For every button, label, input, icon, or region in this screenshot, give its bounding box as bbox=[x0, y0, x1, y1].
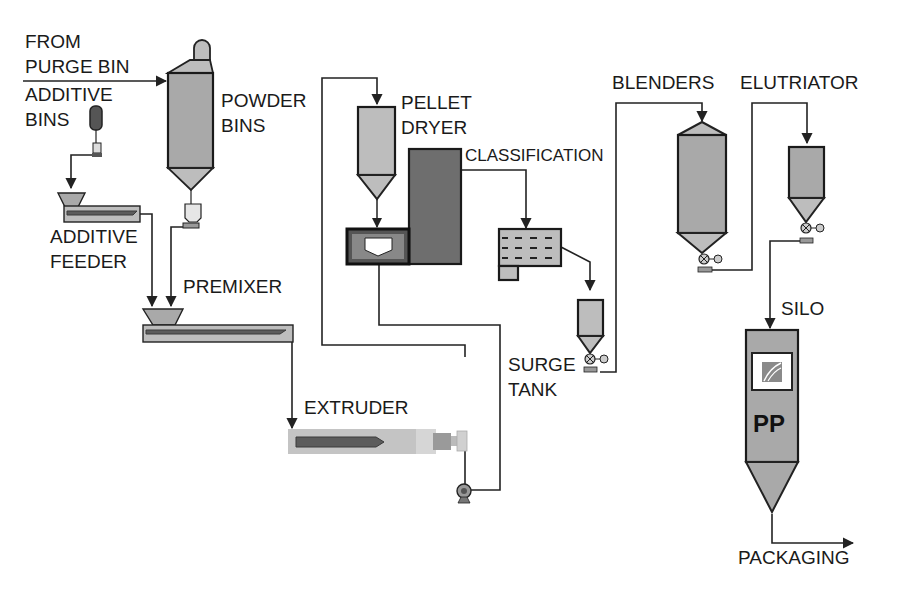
flow-additive-bins-to-feeder bbox=[71, 155, 96, 188]
label-surge-tank-line2: TANK bbox=[508, 379, 558, 400]
surge-tank bbox=[578, 300, 608, 372]
flow-feeder-to-premixer bbox=[140, 214, 152, 306]
label-surge-tank-line1: SURGE bbox=[508, 354, 576, 375]
additive-bin bbox=[90, 106, 102, 157]
pp-logo-icon bbox=[762, 362, 782, 382]
label-from-purge-bin-line1: FROM bbox=[25, 31, 81, 52]
additive-feeder bbox=[58, 193, 140, 222]
pump-icon bbox=[457, 484, 471, 503]
label-additive-bins-line1: ADDITIVE bbox=[25, 84, 113, 105]
label-powder-bins-line1: POWDER bbox=[221, 90, 307, 111]
label-pellet-dryer-line1: PELLET bbox=[401, 92, 472, 113]
label-silo: SILO bbox=[781, 298, 824, 319]
label-extruder: EXTRUDER bbox=[304, 397, 409, 418]
process-flow-diagram: FROM PURGE BIN ADDITIVE BINS POWDER BINS… bbox=[0, 0, 899, 591]
extruder bbox=[288, 429, 467, 454]
silo: PP bbox=[746, 330, 798, 512]
silo-product-label: PP bbox=[753, 410, 785, 437]
label-elutriator: ELUTRIATOR bbox=[740, 72, 859, 93]
flow-silo-to-packaging bbox=[772, 514, 853, 543]
elutriator bbox=[789, 147, 824, 243]
flow-dryer-to-classification bbox=[461, 170, 526, 228]
blenders bbox=[678, 122, 726, 272]
flow-extruder-to-pump bbox=[457, 445, 465, 490]
label-powder-bins-line2: BINS bbox=[221, 115, 265, 136]
premixer bbox=[143, 309, 293, 342]
label-blenders: BLENDERS bbox=[612, 72, 714, 93]
classification-screen bbox=[499, 229, 561, 280]
label-premixer: PREMIXER bbox=[183, 276, 282, 297]
flow-dryer-to-pump-return bbox=[379, 265, 500, 490]
label-pellet-dryer-line2: DRYER bbox=[401, 117, 467, 138]
label-additive-feeder-line1: ADDITIVE bbox=[50, 226, 138, 247]
label-additive-feeder-line2: FEEDER bbox=[50, 251, 127, 272]
label-packaging: PACKAGING bbox=[738, 547, 850, 568]
powder-bins bbox=[168, 40, 213, 228]
label-from-purge-bin-line2: PURGE BIN bbox=[25, 56, 130, 77]
flow-classification-to-surge bbox=[561, 247, 590, 290]
label-additive-bins-line2: BINS bbox=[25, 109, 69, 130]
label-classification: CLASSIFICATION bbox=[465, 146, 604, 165]
